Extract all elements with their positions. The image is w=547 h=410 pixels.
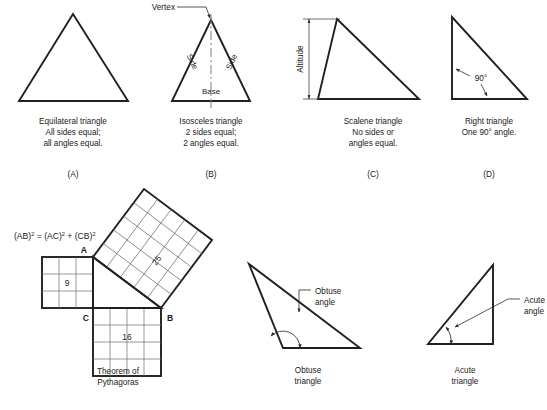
caption-line: All sides equal;: [45, 128, 100, 137]
scalene-triangle-shape: [318, 19, 419, 99]
obtuse-caption-line: triangle: [295, 377, 322, 386]
vertex-label-a: A: [81, 245, 87, 255]
caption-line: One 90° angle.: [462, 128, 517, 137]
square-16-area-label: 16: [122, 332, 132, 342]
figure-obtuse-triangle: [249, 264, 360, 348]
square-25-area-label: 25: [150, 253, 164, 267]
obtuse-caption-line: Obtuse: [295, 366, 322, 375]
acute-caption-line: triangle: [452, 377, 479, 386]
side-label-right: Side: [224, 52, 239, 71]
figure-equilateral-triangle: [19, 14, 128, 101]
figure-letter-a: (A): [67, 169, 78, 179]
caption-equilateral: Equilateral triangle All sides equal; al…: [39, 117, 107, 179]
obtuse-angle-label-line: angle: [315, 298, 335, 307]
figure-canvas: Vertex Side Side Base Altitude 90° Equil…: [0, 0, 547, 410]
caption-isosceles: Isosceles triangle 2 sides equal; 2 angl…: [179, 117, 243, 179]
acute-angle-label-line: angle: [524, 307, 544, 316]
right-angle-arrow-horizontal: [481, 84, 487, 96]
right-angle-label: 90°: [475, 74, 487, 83]
base-label: Base: [202, 87, 221, 96]
caption-line: 2 sides equal;: [186, 128, 237, 137]
caption-line: Isosceles triangle: [179, 117, 243, 126]
right-triangle-shape: [452, 17, 527, 99]
pythagoras-caption-line: Pythagoras: [97, 378, 138, 387]
square-area-16: [93, 308, 161, 376]
acute-angle-arc: [446, 327, 451, 344]
altitude-label: Altitude: [296, 45, 305, 73]
vertex-arrow: [206, 7, 210, 18]
vertex-label-c: C: [83, 313, 89, 323]
obtuse-angle-label-line: Obtuse: [315, 287, 342, 296]
square-9-area-label: 9: [65, 278, 70, 288]
caption-line: No sides or: [352, 128, 394, 137]
formula-expression: (AB)2 = (AC)2 + (CB)2: [14, 231, 96, 241]
acute-caption-line: Acute: [455, 366, 476, 375]
formula-cb-exponent: 2: [92, 231, 95, 237]
square-area-25: [93, 189, 212, 308]
right-angle-arrow-vertical: [456, 69, 470, 76]
caption-scalene: Scalene triangle No sides or angles equa…: [344, 117, 403, 179]
figure-letter-d: (D): [483, 169, 495, 179]
caption-line: Scalene triangle: [344, 117, 403, 126]
pythagoras-caption-line: Theorem of: [97, 367, 140, 376]
caption-line: angles equal.: [349, 139, 398, 148]
figure-letter-b: (B): [205, 169, 216, 179]
caption-right: Right triangle One 90° angle. (D): [462, 117, 517, 179]
obtuse-angle-arc: [271, 331, 300, 348]
caption-line: 2 angles equal.: [183, 139, 239, 148]
formula-cb: (CB): [75, 231, 93, 241]
vertex-label-b: B: [167, 313, 173, 323]
acute-angle-label-line: Acute: [524, 296, 545, 305]
caption-line: all angles equal.: [43, 139, 102, 148]
figure-acute-triangle: [428, 265, 520, 344]
acute-triangle-shape: [428, 265, 493, 344]
triangles-reference-figure: Vertex Side Side Base Altitude 90° Equil…: [0, 0, 547, 410]
formula-ab: (AB): [14, 231, 31, 241]
formula-ac: (AC): [44, 231, 62, 241]
obtuse-triangle-shape: [249, 264, 360, 348]
caption-line: Equilateral triangle: [39, 117, 107, 126]
equilateral-triangle-shape: [19, 14, 128, 101]
caption-line: Right triangle: [465, 117, 514, 126]
square-25-outline: [93, 189, 212, 308]
pythagoras-formula: (AB)2 = (AC)2 + (CB)2: [14, 231, 96, 241]
vertex-label: Vertex: [152, 3, 175, 12]
figure-scalene-triangle: [303, 19, 419, 99]
figure-right-triangle: [452, 17, 527, 99]
acute-angle-leader: [455, 299, 508, 327]
figure-letter-c: (C): [367, 169, 379, 179]
